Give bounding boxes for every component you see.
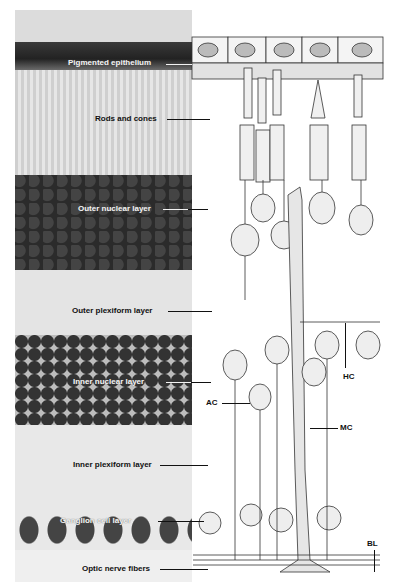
label-rods-and-cones: Rods and cones [95, 114, 157, 123]
leader-ganglion-cell-layer [158, 521, 204, 522]
leader-optic-nerve-fibers [160, 569, 208, 570]
label-inner-plexiform-layer: Inner plexiform layer [73, 460, 152, 469]
leader-pigmented-epithelium [166, 64, 192, 65]
label-outer-nuclear-layer: Outer nuclear layer [78, 204, 151, 213]
label-inner-nuclear-layer: Inner nuclear layer [73, 377, 144, 386]
photoreceptors [240, 68, 366, 182]
leader-amacrine-cell [222, 403, 250, 404]
leader-outer-nuclear-layer [163, 209, 188, 210]
nerve-fibers [193, 555, 380, 565]
ganglion-cells [199, 504, 341, 534]
leader-muller-cell [310, 428, 338, 429]
label-basal-lamina: BL [367, 539, 378, 548]
leader-horizontal-cell [345, 323, 346, 368]
leader-inner-nuclear-layer [166, 382, 191, 383]
label-optic-nerve-fibers: Optic nerve fibers [82, 564, 150, 573]
label-outer-plexiform-layer: Outer plexiform layer [72, 306, 152, 315]
label-amacrine-cell: AC [206, 398, 218, 407]
epithelium-cells [192, 37, 383, 79]
label-muller-cell: MC [340, 423, 352, 432]
label-pigmented-epithelium: Pigmented epithelium [68, 58, 151, 67]
leader-outer-nuclear-layer-ext [188, 209, 208, 210]
leader-basal-lamina [374, 550, 375, 572]
leader-rods-and-cones [167, 119, 210, 120]
label-ganglion-cell-layer: Ganglion cell layer [60, 516, 131, 525]
label-horizontal-cell: HC [343, 372, 355, 381]
leader-inner-plexiform-layer [160, 465, 208, 466]
retina-schematic [0, 0, 401, 586]
leader-outer-plexiform-layer [168, 311, 212, 312]
leader-inner-nuclear-layer-ext [191, 382, 211, 383]
